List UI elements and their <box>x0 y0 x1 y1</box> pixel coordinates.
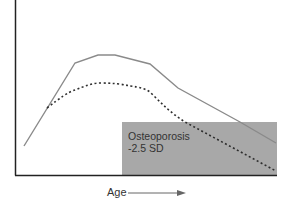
chart-canvas <box>0 0 291 204</box>
x-axis-label: Age <box>107 186 127 199</box>
osteoporosis-label-line2: -2.5 SD <box>128 142 190 154</box>
osteoporosis-label: Osteoporosis -2.5 SD <box>128 130 190 154</box>
osteoporosis-label-line1: Osteoporosis <box>128 130 190 142</box>
age-arrow-head <box>177 190 186 196</box>
